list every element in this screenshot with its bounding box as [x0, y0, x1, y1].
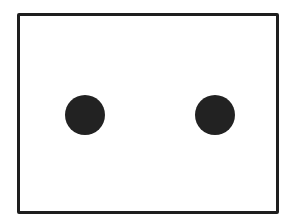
left-dot [65, 95, 105, 135]
right-dot [195, 95, 235, 135]
rectangle-frame [17, 13, 279, 214]
